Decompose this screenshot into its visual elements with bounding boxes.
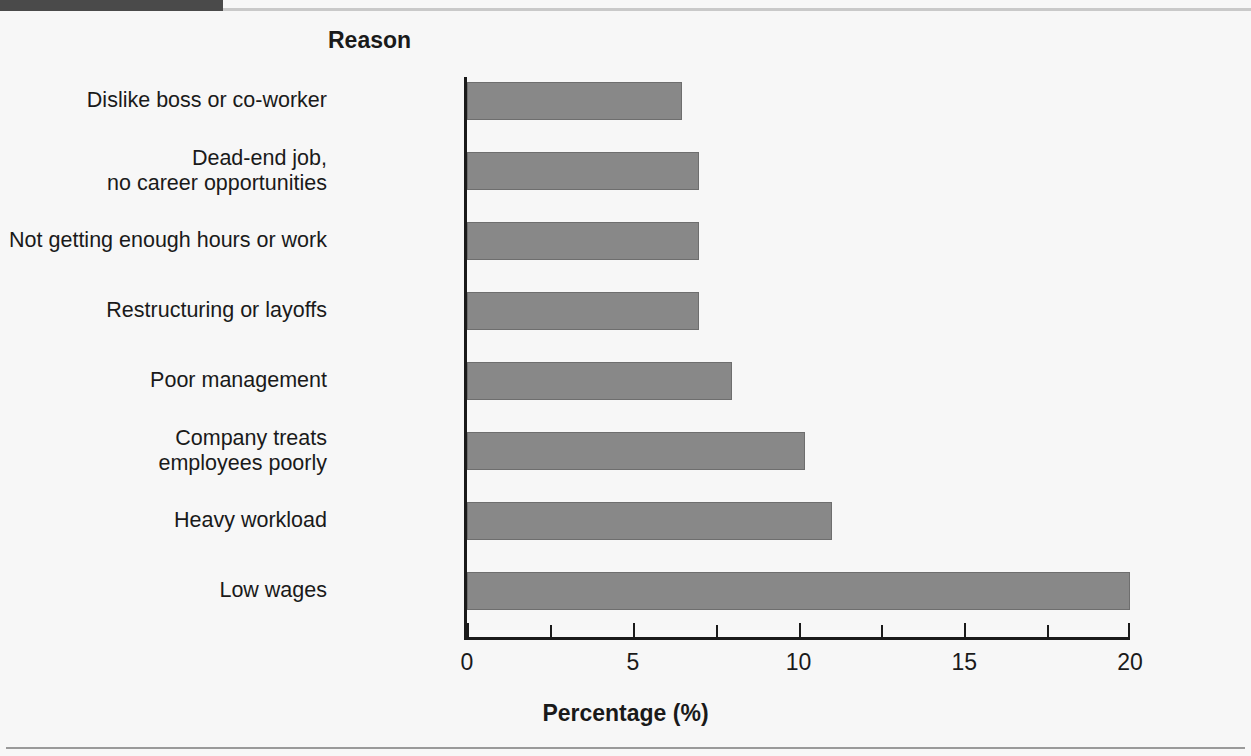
bar-heavy-workload	[467, 502, 832, 540]
top-divider-rule	[223, 8, 1251, 11]
bar-company-treats-employees-poorly	[467, 432, 805, 470]
bar-low-wages	[467, 572, 1130, 610]
y-label-dislike-boss-or-co-worker: Dislike boss or co-worker	[0, 88, 327, 113]
plot-area: 0 5 10 15 20 Dislike boss or co-worker D…	[467, 77, 1130, 637]
bar-not-getting-enough-hours	[467, 222, 699, 260]
y-label-restructuring-or-layoffs: Restructuring or layoffs	[0, 298, 327, 323]
x-tick-7.5	[716, 625, 718, 637]
bar-dead-end-job	[467, 152, 699, 190]
x-axis-line	[464, 637, 1130, 640]
top-marker-bar	[0, 0, 223, 11]
x-tick-15	[964, 623, 966, 637]
bar-dislike-boss-or-co-worker	[467, 82, 682, 120]
x-tick-2.5	[550, 625, 552, 637]
x-tick-5	[633, 623, 635, 637]
chart-figure: Reason 0 5 10 15 20 Dislike boss or co-w…	[0, 0, 1251, 756]
x-axis-title: Percentage (%)	[0, 700, 1251, 727]
x-tick-10	[799, 623, 801, 637]
y-label-heavy-workload: Heavy workload	[0, 508, 327, 533]
y-label-low-wages: Low wages	[0, 578, 327, 603]
x-tick-12.5	[881, 625, 883, 637]
y-label-dead-end-job: Dead-end job, no career opportunities	[0, 146, 327, 196]
x-tick-label-10: 10	[786, 649, 812, 676]
x-tick-20	[1128, 623, 1130, 637]
y-axis-title: Reason	[328, 27, 411, 54]
x-tick-label-5: 5	[626, 649, 639, 676]
x-tick-0	[467, 623, 469, 637]
y-label-not-getting-enough-hours: Not getting enough hours or work	[0, 228, 327, 253]
x-tick-17.5	[1047, 625, 1049, 637]
bottom-divider-rule	[6, 747, 1245, 749]
y-label-company-treats-employees-poorly: Company treats employees poorly	[0, 426, 327, 476]
bar-poor-management	[467, 362, 732, 400]
x-tick-label-20: 20	[1117, 649, 1143, 676]
x-tick-label-15: 15	[952, 649, 978, 676]
x-tick-label-0: 0	[461, 649, 474, 676]
y-label-poor-management: Poor management	[0, 368, 327, 393]
bar-restructuring-or-layoffs	[467, 292, 699, 330]
